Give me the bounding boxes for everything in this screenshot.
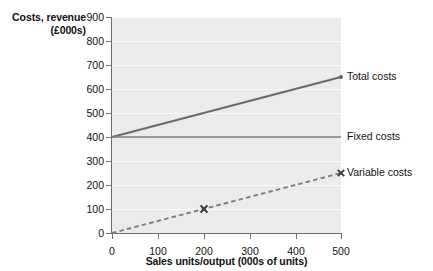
series-line-variable-costs xyxy=(112,173,341,233)
series-line-total-costs xyxy=(112,77,341,137)
cost-behaviour-chart: Costs, revenue (£000s) 900 800 700 600 5… xyxy=(0,0,433,271)
series-label-variable-costs: Variable costs xyxy=(347,167,412,178)
series-label-fixed-costs: Fixed costs xyxy=(347,131,400,142)
series-label-total-costs: Total costs xyxy=(347,71,397,82)
series-endpoint-total-costs xyxy=(339,75,343,79)
